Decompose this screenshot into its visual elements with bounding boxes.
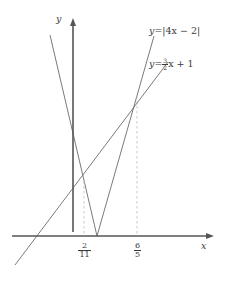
tick-2-11-numerator: 2 xyxy=(78,242,90,250)
tick-2-11-denominator: 11 xyxy=(78,250,90,259)
tick-fraction-6-5: 6 5 xyxy=(134,242,141,260)
y-axis-label: y xyxy=(56,14,61,24)
absolute-value-equation-label: y=|4x − 2| xyxy=(149,26,200,36)
lin-eq-rhs-tail: x + 1 xyxy=(168,58,193,69)
plot-canvas xyxy=(0,0,226,281)
linear-curve xyxy=(15,62,168,265)
x-axis-arrow-icon xyxy=(206,233,214,239)
math-graph-figure: y x y=|4x − 2| y= 3 2 x + 1 2 11 6 5 xyxy=(0,0,226,281)
absolute-value-curve xyxy=(50,35,154,236)
abs-eq-rhs: |4x − 2| xyxy=(162,25,200,36)
linear-equation-label: y= 3 2 x + 1 xyxy=(149,58,194,72)
lin-eq-operator: = xyxy=(154,58,162,69)
tick-6-5-denominator: 5 xyxy=(134,250,141,259)
tick-fraction-2-11: 2 11 xyxy=(78,242,90,260)
tick-label-6-5: 6 5 xyxy=(129,242,146,260)
lin-eq-coefficient-fraction: 3 2 xyxy=(162,58,168,72)
lin-eq-coefficient-denominator: 2 xyxy=(162,64,168,71)
x-axis-label: x xyxy=(201,241,206,251)
y-axis-arrow-icon xyxy=(70,18,76,26)
tick-label-2-11: 2 11 xyxy=(76,242,93,260)
tick-6-5-numerator: 6 xyxy=(134,242,141,250)
